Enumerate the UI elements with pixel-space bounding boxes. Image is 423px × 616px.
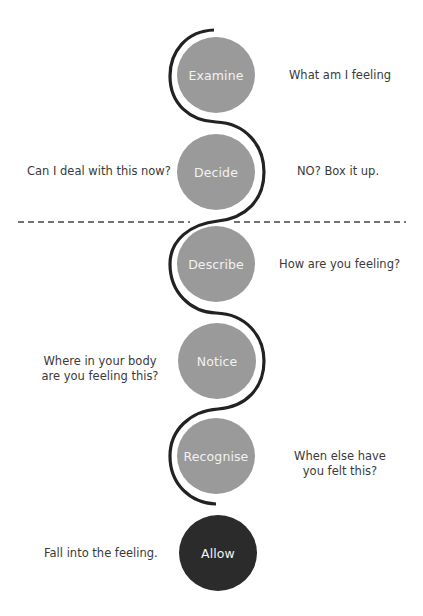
notice-prompt: Where in your body are you feeling this?: [38, 354, 162, 384]
step-allow-label: Allow: [201, 546, 235, 561]
step-notice-label: Notice: [197, 354, 238, 369]
step-decide-label: Decide: [194, 165, 238, 180]
notice-prompt-line1: Where in your body: [38, 354, 162, 369]
recognise-prompt-line2: you felt this?: [290, 464, 390, 479]
step-describe: Describe: [177, 226, 255, 302]
recognise-prompt-line1: When else have: [290, 449, 390, 464]
emotion-flow-diagram: Examine What am I feeling Decide Can I d…: [0, 0, 423, 616]
step-recognise-label: Recognise: [184, 449, 249, 464]
step-notice: Notice: [178, 323, 256, 399]
examine-prompt: What am I feeling: [289, 68, 391, 83]
recognise-prompt: When else have you felt this?: [290, 449, 390, 479]
describe-prompt: How are you feeling?: [279, 257, 400, 272]
decide-answer: NO? Box it up.: [297, 164, 379, 179]
step-examine: Examine: [177, 37, 255, 113]
allow-prompt: Fall into the feeling.: [44, 546, 158, 561]
step-describe-label: Describe: [188, 257, 244, 272]
step-examine-label: Examine: [189, 68, 244, 83]
notice-prompt-line2: are you feeling this?: [38, 369, 162, 384]
decide-question: Can I deal with this now?: [27, 164, 171, 179]
step-recognise: Recognise: [177, 418, 255, 494]
step-allow: Allow: [179, 515, 257, 591]
step-decide: Decide: [177, 134, 255, 210]
